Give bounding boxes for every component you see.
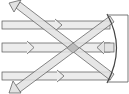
incoming-beam-middle <box>2 41 110 54</box>
concave-mirror-diagram: Parallel light rays reflecting off a con… <box>0 0 129 94</box>
incoming-beam-bottom <box>2 70 110 82</box>
reflected-beam-up-left <box>9 0 114 80</box>
